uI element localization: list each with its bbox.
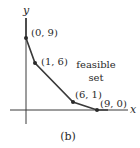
- feasible-set-diagram: y x (0, 9) (1, 6) (6, 1) (9, 0) feasible…: [0, 0, 140, 148]
- figure-caption: (b): [60, 130, 76, 143]
- feasible-label-line2: set: [88, 72, 103, 83]
- vertex-label-6-1: (6, 1): [75, 89, 102, 100]
- y-axis-label: y: [22, 4, 30, 17]
- vertex-6-1: [71, 100, 75, 104]
- x-axis-label: x: [130, 103, 137, 116]
- feasible-label-line1: feasible: [76, 59, 116, 70]
- vertex-9-0: [95, 108, 99, 112]
- vertex-1-6: [33, 61, 37, 65]
- vertex-0-9: [24, 36, 28, 40]
- vertex-label-9-0: (9, 0): [100, 98, 127, 109]
- vertex-label-1-6: (1, 6): [41, 56, 68, 67]
- vertex-label-0-9: (0, 9): [31, 27, 58, 38]
